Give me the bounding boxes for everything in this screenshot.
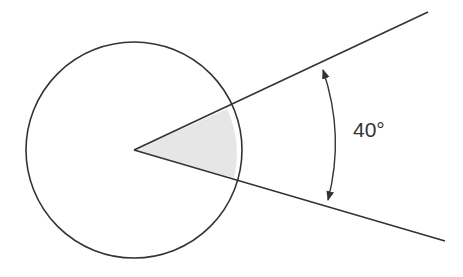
angle-diagram: 40° xyxy=(0,0,463,277)
angle-label: 40° xyxy=(353,118,385,141)
lower-ray xyxy=(134,150,445,241)
angle-arc-arrow xyxy=(323,70,335,200)
